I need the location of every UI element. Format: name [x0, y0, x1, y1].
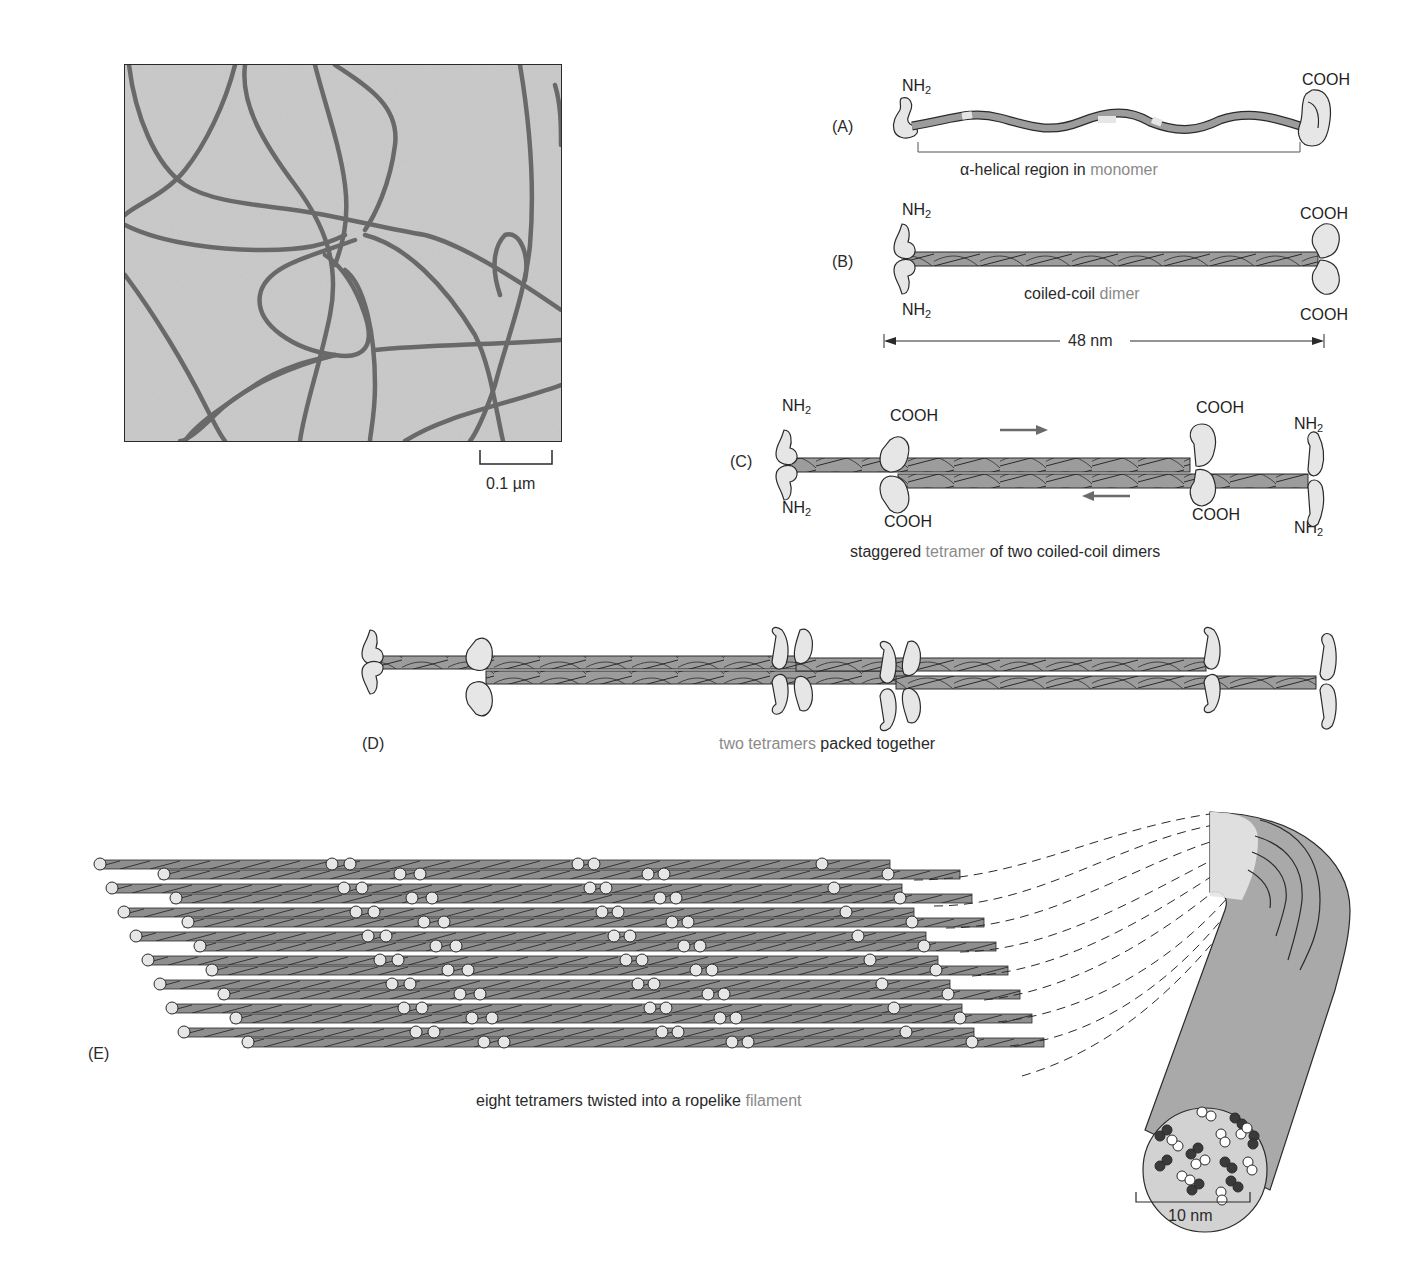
- tetramer-array-diagram: [90, 850, 990, 1080]
- panel-c-letter: (C): [730, 454, 752, 470]
- panel-b-nh2-top-label: NH2: [902, 202, 931, 220]
- tetramer-diagram: [770, 420, 1350, 520]
- panel-a-cooh-label: COOH: [1302, 72, 1350, 88]
- micrograph-scale-bar: [478, 448, 558, 468]
- panel-c-left-nh2-top: NH2: [782, 398, 811, 416]
- filament-diagram: [880, 800, 1360, 1220]
- filament-diameter-label: 10 nm: [1168, 1208, 1212, 1224]
- monomer-diagram: [880, 90, 1340, 160]
- panel-b-letter: (B): [832, 254, 853, 270]
- panel-a-letter: (A): [832, 119, 853, 135]
- panel-b-cooh-bottom-label: COOH: [1300, 307, 1348, 323]
- n-terminal-head-icon: [893, 98, 917, 138]
- panel-b-nh2-bottom-label: NH2: [902, 302, 931, 320]
- two-tetramers-diagram: [356, 626, 1346, 726]
- panel-c-caption: staggered tetramer of two coiled-coil di…: [850, 544, 1160, 560]
- micrograph-image: [125, 65, 561, 441]
- micrograph-scale-label: 0.1 µm: [486, 476, 535, 492]
- electron-micrograph: [124, 64, 562, 442]
- c-terminal-head-icon: [1299, 90, 1331, 146]
- panel-e-caption: eight tetramers twisted into a ropelike …: [476, 1093, 802, 1109]
- panel-c-right-cooh-top: COOH: [1196, 400, 1244, 416]
- panel-b-caption: coiled-coil dimer: [1024, 286, 1140, 302]
- panel-a-caption: α-helical region in monomer: [960, 162, 1158, 178]
- panel-b-length-label: 48 nm: [1068, 333, 1112, 349]
- panel-d-letter: (D): [362, 736, 384, 752]
- panel-d-caption: two tetramers packed together: [719, 736, 935, 752]
